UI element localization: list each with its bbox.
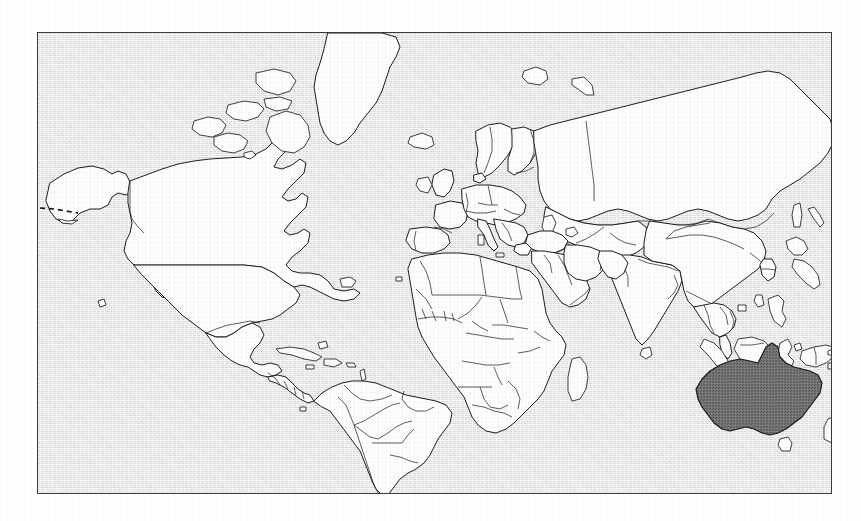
island-sardinia <box>478 235 484 245</box>
landmass-indochina <box>694 303 736 337</box>
island-cuba <box>276 347 322 361</box>
figure-caption <box>0 0 1 1</box>
island-victoria <box>214 133 248 153</box>
island-sicily <box>496 253 504 257</box>
island-novaya-zemlya <box>572 77 594 95</box>
island-hainan <box>738 305 746 311</box>
landmass-usa <box>134 265 300 337</box>
landmass-iberia <box>406 227 450 253</box>
island-lesser-antilles <box>360 369 366 381</box>
island-new-zealand-south <box>824 415 832 443</box>
island-banks <box>192 117 226 137</box>
island-hispaniola <box>324 359 342 367</box>
island-taiwan <box>754 295 764 307</box>
landmass-south-america <box>314 381 452 494</box>
island-melville <box>226 101 264 121</box>
island-bahamas <box>318 341 328 349</box>
island-puerto-rico <box>346 363 356 367</box>
island-hawaii <box>98 299 106 307</box>
world-map-figure: Outline world map with country borders; … <box>0 0 861 521</box>
island-sakhalin <box>792 203 802 227</box>
island-iceland <box>408 133 434 149</box>
landmass-central-america <box>268 375 314 403</box>
island-ireland <box>416 177 432 193</box>
world-map-graphic <box>38 33 832 494</box>
island-new-britain <box>828 363 832 369</box>
island-japan <box>786 237 820 289</box>
island-jamaica <box>306 365 314 369</box>
island-sri-lanka <box>640 347 652 359</box>
landmass-british-isles <box>432 169 454 197</box>
island-madagascar <box>568 357 588 401</box>
landmass-greenland <box>314 33 400 145</box>
figure-accessible-description: Outline world map with country borders; … <box>0 0 1 1</box>
landmass-alaska <box>46 166 132 223</box>
island-devon <box>264 97 292 111</box>
landmass-russia-asia <box>534 71 832 221</box>
island-moluccas <box>794 343 802 351</box>
island-galapagos <box>300 407 306 411</box>
island-ellesmere <box>256 69 296 95</box>
landmass-balkans <box>494 219 528 247</box>
island-kuril <box>808 207 824 227</box>
island-tasmania <box>778 437 792 451</box>
island-philippines <box>768 295 786 327</box>
map-frame <box>37 32 832 494</box>
island-svalbard <box>522 67 548 85</box>
island-newfoundland <box>340 277 356 287</box>
island-canary <box>396 277 402 281</box>
